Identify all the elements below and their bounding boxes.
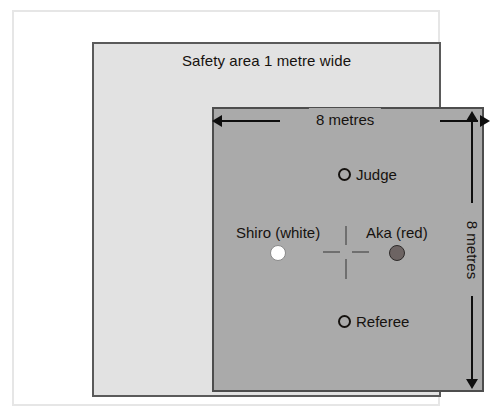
safety-area-panel: Safety area 1 metre wide 8 metres 8 metr…: [92, 42, 441, 397]
marker-referee: Referee: [338, 313, 409, 330]
marker-judge-label: Judge: [356, 166, 397, 183]
page-frame: Safety area 1 metre wide 8 metres 8 metr…: [12, 10, 440, 406]
marker-referee-label: Referee: [356, 313, 409, 330]
marker-shiro-label: Shiro (white): [236, 224, 320, 242]
marker-shiro: Shiro (white): [236, 224, 320, 261]
white-circle-icon: [270, 245, 286, 261]
red-circle-icon: [389, 245, 405, 261]
open-circle-icon: [338, 168, 351, 181]
open-circle-icon: [338, 315, 351, 328]
safety-area-label: Safety area 1 metre wide: [94, 52, 439, 69]
marker-aka: Aka (red): [366, 224, 428, 261]
marker-judge: Judge: [338, 166, 397, 183]
marker-aka-label: Aka (red): [366, 224, 428, 242]
